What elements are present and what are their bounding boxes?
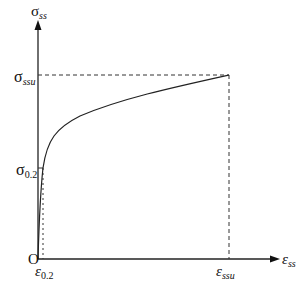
x-axis-arrow-icon bbox=[270, 256, 280, 263]
stress-strain-diagram bbox=[0, 0, 307, 288]
y-axis-label: σss bbox=[31, 4, 47, 21]
x-axis-label: εss bbox=[282, 252, 296, 269]
ultimate-strain-label: εssu bbox=[216, 264, 235, 281]
ultimate-stress-label: σssu bbox=[14, 69, 35, 87]
proof-strain-label: ε0.2 bbox=[35, 264, 53, 281]
proof-stress-label: σ0.2 bbox=[16, 162, 37, 180]
stress-strain-curve bbox=[38, 75, 229, 259]
y-axis-arrow-icon bbox=[35, 20, 42, 30]
